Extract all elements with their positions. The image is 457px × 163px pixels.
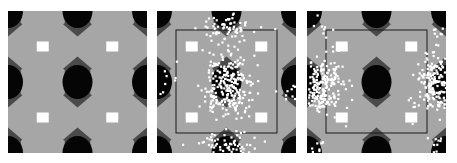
tiling-image-with-points bbox=[307, 11, 446, 153]
tiling-panel-plain bbox=[8, 11, 147, 153]
tiling-image-with-points bbox=[157, 11, 296, 153]
tiling-image bbox=[8, 11, 147, 153]
tiling-panel-center-points bbox=[157, 11, 296, 153]
tiling-panel-side-points bbox=[307, 11, 446, 153]
